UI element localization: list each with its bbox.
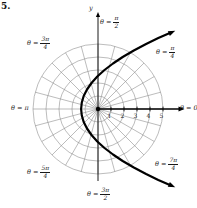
fraction: 5π4	[40, 165, 50, 179]
angle-label-pi: θ = π	[11, 105, 29, 112]
svg-text:4: 4	[147, 112, 151, 119]
angle-label-three-pi-over-4: θ =3π4	[27, 36, 50, 50]
fraction-denominator: 4	[43, 44, 47, 51]
angle-label-text: θ =	[27, 169, 38, 176]
polar-graph-figure: 12345 5. y θ =π2 θ =3π4 θ =π4 θ = π θ = …	[0, 0, 197, 208]
angle-label-text: θ =	[27, 40, 38, 47]
fraction: 7π4	[168, 157, 178, 171]
fraction-denominator: 4	[171, 53, 175, 60]
angle-label-text: θ =	[87, 191, 98, 198]
angle-label-seven-pi-over-4: θ =7π4	[155, 157, 178, 171]
angle-label-text: θ = π	[11, 105, 29, 112]
angle-label-zero: θ = 0	[180, 105, 197, 112]
exercise-number: 5.	[1, 1, 10, 11]
angle-label-text: θ =	[155, 161, 166, 168]
svg-text:1: 1	[108, 112, 112, 119]
svg-text:5: 5	[160, 112, 164, 119]
fraction: π2	[113, 15, 119, 29]
fraction: 3π4	[40, 36, 50, 50]
angle-label-three-pi-over-2: θ =3π2	[87, 187, 110, 201]
fraction: 3π2	[100, 187, 110, 201]
fraction-denominator: 4	[171, 165, 175, 172]
angle-label-pi-over-4: θ =π4	[156, 45, 175, 59]
angle-label-text: θ =	[156, 49, 167, 56]
angle-label-text: θ = 0	[180, 105, 197, 112]
angle-label-five-pi-over-4: θ =5π4	[27, 165, 50, 179]
angle-label-pi-over-2: θ =π2	[100, 15, 119, 29]
svg-text:3: 3	[134, 112, 138, 119]
fraction-denominator: 2	[103, 195, 107, 202]
fraction-denominator: 4	[43, 173, 47, 180]
fraction: π4	[169, 45, 175, 59]
svg-text:2: 2	[121, 112, 125, 119]
y-axis-label: y	[89, 5, 93, 12]
fraction-denominator: 2	[115, 23, 119, 30]
angle-label-text: θ =	[100, 19, 111, 26]
